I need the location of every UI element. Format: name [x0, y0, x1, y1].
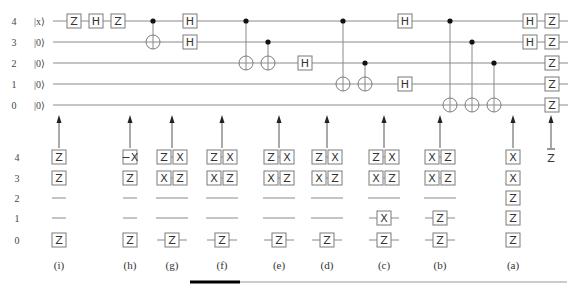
pauli-label: X: [226, 151, 234, 164]
pauli-label: X: [380, 212, 388, 225]
cnot-control-dot-icon: [340, 18, 345, 23]
cnot-control-dot-icon: [265, 39, 270, 44]
pauli-label: X: [428, 172, 436, 185]
pauli-label: Z: [226, 172, 234, 185]
gate-label: H: [401, 15, 409, 28]
row-index-label: 2: [15, 193, 20, 204]
pauli-label: X: [428, 151, 436, 164]
wire-index-label: 0: [12, 100, 17, 111]
gate-label: Z: [548, 15, 556, 28]
gate-label: Z: [548, 36, 556, 49]
pauli-label: Z: [444, 172, 452, 185]
arrow-up-icon: [325, 115, 330, 123]
gate-label: H: [401, 78, 409, 91]
arrow-up-icon: [128, 115, 133, 123]
gate-label: H: [301, 57, 309, 70]
gate-label: H: [526, 36, 534, 49]
row-index-label: 1: [15, 213, 20, 224]
arrow-up-icon: [549, 115, 554, 123]
pauli-label: Z: [323, 234, 331, 247]
wire-ket-label: |0⟩: [34, 79, 45, 90]
pauli-label: Z: [160, 151, 168, 164]
cnot-control-dot-icon: [362, 60, 367, 65]
arrow-up-icon: [438, 115, 443, 123]
pauli-label: X: [315, 172, 323, 185]
wire-ket-label: |0⟩: [34, 58, 45, 69]
arrow-up-icon: [277, 115, 282, 123]
pauli-label: Z: [210, 151, 218, 164]
gate-label: H: [186, 36, 194, 49]
column-caption: (f): [217, 259, 228, 272]
pauli-label: X: [210, 172, 218, 185]
column-caption: (g): [166, 259, 179, 272]
arrow-up-icon: [57, 115, 62, 123]
pauli-label: X: [388, 151, 396, 164]
wire-ket-label: |0⟩: [34, 100, 45, 111]
pauli-label: Z: [126, 172, 134, 185]
pauli-label: Z: [315, 151, 323, 164]
pauli-label: Z: [55, 234, 63, 247]
row-index-label: 4: [15, 152, 20, 163]
cnot-control-dot-icon: [491, 60, 496, 65]
gate-label: Z: [70, 15, 78, 28]
cnot-control-dot-icon: [469, 39, 474, 44]
pauli-label: Z: [267, 151, 275, 164]
column-caption: (e): [273, 259, 286, 272]
wire-index-label: 2: [12, 58, 17, 69]
row-index-label: 0: [15, 235, 20, 246]
wire-ket-label: |0⟩: [34, 37, 45, 48]
gate-label: H: [526, 15, 534, 28]
pauli-label: Z: [283, 172, 291, 185]
pauli-label: X: [176, 151, 184, 164]
pauli-label: Z: [126, 234, 134, 247]
wire-index-label: 1: [12, 79, 17, 90]
cnot-control-dot-icon: [447, 18, 452, 23]
pauli-label: Z: [509, 234, 517, 247]
cnot-control-dot-icon: [243, 18, 248, 23]
gate-label: Z: [114, 15, 122, 28]
wire-ket-label: |x⟩: [34, 16, 45, 27]
pauli-label: X: [331, 151, 339, 164]
pauli-label: Z: [218, 234, 226, 247]
arrow-up-icon: [382, 115, 387, 123]
row-index-label: 3: [15, 173, 20, 184]
pauli-label: Z: [436, 212, 444, 225]
column-caption: (a): [507, 259, 520, 272]
pauli-label: −X: [122, 151, 139, 164]
pauli-label: Z: [509, 212, 517, 225]
pauli-label: Z: [388, 172, 396, 185]
pauli-label: Z: [436, 234, 444, 247]
gate-label: Z: [548, 78, 556, 91]
pauli-label: Z: [372, 151, 380, 164]
wire-index-label: 4: [12, 16, 17, 27]
arrow-up-icon: [170, 115, 175, 123]
arrow-up-icon: [220, 115, 225, 123]
wire-index-label: 3: [12, 37, 17, 48]
pauli-label: Z: [331, 172, 339, 185]
gate-label: H: [186, 15, 194, 28]
pauli-label: X: [509, 172, 517, 185]
cnot-control-dot-icon: [150, 18, 155, 23]
pauli-label: X: [267, 172, 275, 185]
gate-label: Z: [548, 57, 556, 70]
gate-label: Z: [548, 99, 556, 112]
column-caption: (h): [124, 259, 137, 272]
column-caption: (i): [54, 259, 65, 272]
gate-label: H: [92, 15, 100, 28]
pauli-label: Z: [55, 172, 63, 185]
pauli-label: X: [372, 172, 380, 185]
pauli-label: Z: [176, 172, 184, 185]
pauli-label: Z: [444, 151, 452, 164]
pauli-label: Z: [275, 234, 283, 247]
pauli-label: Z: [55, 151, 63, 164]
quantum-circuit-diagram: 4|x⟩3|0⟩2|0⟩1|0⟩0|0⟩ZHZHHHHHHHZZZZZ43210…: [0, 0, 580, 284]
column-caption: (d): [321, 259, 334, 272]
pauli-label: X: [509, 151, 517, 164]
pauli-label: Z: [380, 234, 388, 247]
column-caption: (c): [378, 259, 391, 272]
logical-z-label: Z: [547, 152, 555, 165]
column-caption: (b): [434, 259, 447, 272]
pauli-label: Z: [168, 234, 176, 247]
pauli-label: X: [283, 151, 291, 164]
pauli-label: X: [160, 172, 168, 185]
